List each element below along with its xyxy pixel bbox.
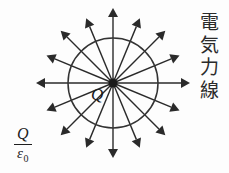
flux-numerator: Q <box>14 126 32 143</box>
epsilon-subscript: 0 <box>23 153 29 164</box>
field-line-arrowhead <box>108 149 118 158</box>
field-line-arrowhead <box>181 78 190 88</box>
field-line-arrowhead <box>36 78 45 88</box>
field-line-arrowhead <box>108 8 118 17</box>
title-char-1: 電 <box>198 11 220 34</box>
title-char-3: 力 <box>198 56 220 79</box>
point-charge-label: Q <box>91 85 103 105</box>
flux-denominator: ε0 <box>14 146 32 164</box>
title-char-2: 気 <box>198 34 220 57</box>
field-lines-diagram <box>0 0 229 173</box>
electric-field-lines-figure: Q 電 気 力 線 Q ε0 <box>0 0 229 173</box>
flux-formula: Q ε0 <box>14 126 32 164</box>
figure-title-vertical: 電 気 力 線 <box>198 11 220 101</box>
point-charge-dot <box>109 79 118 88</box>
title-char-4: 線 <box>198 79 220 102</box>
